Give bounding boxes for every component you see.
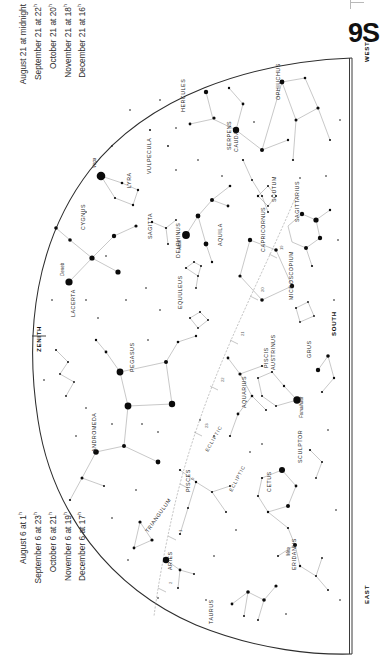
- constellation-label-sculptor: SCULPTOR: [297, 430, 303, 463]
- constellation-label-cetus: CETUS: [266, 471, 272, 492]
- constellation-label-aquarius: AQUARIUS: [241, 376, 247, 408]
- ecliptic-hour-label: 19: [279, 245, 284, 250]
- constellation-label-eridanus: ERIDANUS: [291, 538, 297, 570]
- constellation-label-sagittarius: SAGITTARIUS: [294, 181, 300, 222]
- star-label-deneb: Deneb: [60, 262, 65, 276]
- constellation-labels: HERCULES OPHIUCHUS SERPENS CAUDA SCUTUM …: [70, 63, 312, 624]
- star-label-fomalhaut: Fomalhaut: [299, 396, 304, 418]
- constellation-label-pegasus: PEGASUS: [129, 343, 135, 372]
- ecliptic-hour-label: 23: [204, 423, 209, 428]
- constellation-label-lyra: LYRA: [126, 172, 132, 188]
- zenith-label: ZENITH: [35, 326, 42, 352]
- constellation-label-ophiuchus: OPHIUCHUS: [275, 63, 281, 100]
- ecliptic-hour-ticks: [158, 254, 277, 592]
- constellation-label-pisces: PISCES: [185, 469, 191, 492]
- star-altair: [182, 231, 190, 239]
- star-vega: [97, 172, 106, 181]
- ecliptic-hour-label: 21: [240, 331, 245, 336]
- star-chart-page: 9S August 21 at midnight September 21 at…: [0, 0, 384, 657]
- constellation-label-andromeda: ANDROMEDA: [91, 413, 97, 452]
- ecliptic-hour-labels: 19 20 21 22 23 0 1 2: [168, 245, 284, 584]
- constellation-label-equuleus: EQUULEUS: [177, 275, 183, 309]
- constellation-label-sagitta: SAGITTA: [147, 213, 153, 239]
- constellation-label-cauda: CAUDA: [233, 131, 239, 152]
- constellation-label-hercules: HERCULES: [180, 79, 186, 112]
- constellation-label-microscopium: MICROSCOPIUM: [288, 251, 294, 300]
- star-deneb: [65, 278, 72, 285]
- constellation-label-austrinus: AUSTRINUS: [270, 334, 276, 370]
- ecliptic-hour-label: 20: [260, 287, 265, 292]
- ecliptic-label-2: ECLIPTIC: [228, 464, 247, 492]
- cardinal-west: WEST: [363, 42, 370, 62]
- constellation-label-piscis: PISCIS: [263, 347, 269, 368]
- constellation-label-cygnus: CYGNUS: [80, 204, 86, 230]
- constellation-label-vulpecula: VULPECULA: [146, 138, 152, 174]
- ecliptic-hour-label: 2: [168, 581, 173, 584]
- constellation-label-aquila: AQUILA: [217, 223, 223, 246]
- ecliptic-hour-label: 22: [220, 377, 225, 382]
- constellation-label-delphinus: DELPHINUS: [175, 223, 181, 258]
- ecliptic-line: [154, 196, 296, 616]
- horizon-arc: [33, 58, 352, 654]
- constellation-label-capricornus: CAPRICORNUS: [260, 207, 266, 252]
- constellation-label-aries: ARIES: [167, 551, 173, 570]
- star-label-vega: Vega: [92, 157, 97, 168]
- constellation-label-triangulum: TRIANGULUM: [144, 497, 172, 534]
- constellation-label-taurus: TAURUS: [208, 599, 214, 624]
- star-chart-figure: 19 20 21 22 23 0 1 2 ECLIPTIC ECLIPTIC: [0, 0, 384, 657]
- cardinal-south: SOUTH: [330, 311, 337, 336]
- cardinal-east: EAST: [363, 585, 370, 604]
- constellation-label-grus: GRUS: [306, 340, 312, 358]
- cardinal-labels: WEST SOUTH EAST ZENITH: [35, 42, 370, 604]
- constellation-label-serpens: SERPENS: [226, 121, 232, 150]
- ecliptic-hour-label: 1: [178, 529, 183, 532]
- constellation-label-lacerta: LACERTA: [70, 289, 76, 317]
- constellation-label-scutum: SCUTUM: [271, 176, 277, 202]
